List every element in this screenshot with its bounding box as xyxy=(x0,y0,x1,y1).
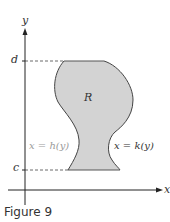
y-axis-arrow-icon xyxy=(23,28,28,35)
tick-label-d: d xyxy=(11,53,18,66)
region-label: R xyxy=(84,91,92,104)
right-curve-label: x = k(y) xyxy=(114,140,154,151)
figure-diagram xyxy=(0,0,170,222)
figure-caption: Figure 9 xyxy=(4,205,52,219)
left-curve-label: x = h(y) xyxy=(29,140,69,151)
x-axis-arrow-icon xyxy=(156,188,163,193)
tick-label-c: c xyxy=(13,161,19,174)
x-axis-label: x xyxy=(164,183,170,196)
region-r xyxy=(55,61,133,170)
y-axis-label: y xyxy=(22,14,28,27)
